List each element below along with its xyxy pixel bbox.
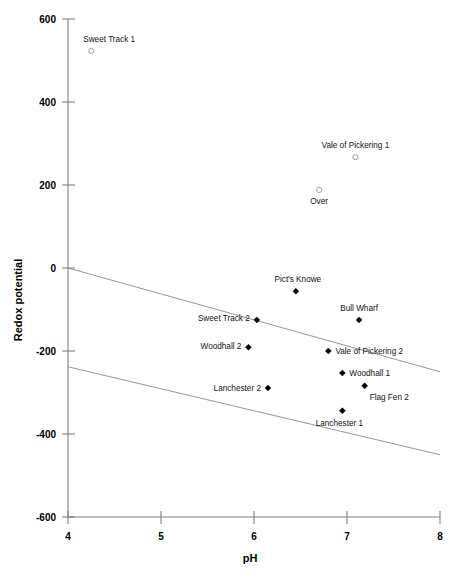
y-tick-label: 200	[39, 180, 56, 191]
x-axis-title: pH	[243, 552, 258, 564]
data-point-label: Pict's Knowe	[275, 275, 322, 284]
data-point-label: Flag Fen 2	[370, 393, 410, 402]
data-point-label: Woodhall 1	[349, 369, 390, 378]
x-tick-label: 4	[65, 531, 71, 542]
data-point-label: Over	[310, 197, 328, 206]
data-point-marker[interactable]	[339, 370, 345, 376]
data-point-label: Lanchester 2	[214, 384, 262, 393]
x-tick-label: 8	[437, 531, 443, 542]
data-point-marker[interactable]	[362, 383, 368, 389]
y-tick-label: -200	[36, 346, 56, 357]
axes-group	[68, 19, 440, 517]
data-point-marker[interactable]	[325, 348, 331, 354]
lower-bound-line	[68, 367, 440, 455]
scatter-plot-figure: 6004002000-200-400-600 45678 Redox poten…	[0, 0, 461, 577]
data-point-label: Lanchester 1	[316, 419, 364, 428]
y-tick-label: 0	[50, 263, 56, 274]
data-point-marker[interactable]	[293, 288, 299, 294]
data-point-marker[interactable]	[245, 344, 251, 350]
y-tick-label: -600	[36, 512, 56, 523]
data-point-label: Bull Wharf	[340, 304, 378, 313]
data-points-group	[89, 48, 368, 413]
data-point-marker[interactable]	[356, 317, 362, 323]
data-point-marker[interactable]	[353, 155, 358, 160]
data-point-marker[interactable]	[339, 408, 345, 414]
data-point-label: Woodhall 2	[201, 342, 242, 351]
data-point-marker[interactable]	[254, 317, 260, 323]
plot-canvas: 6004002000-200-400-600 45678 Redox poten…	[0, 0, 461, 577]
data-point-marker[interactable]	[265, 385, 271, 391]
y-axis-title: Redox potential	[12, 259, 24, 342]
y-tick-label: -400	[36, 429, 56, 440]
data-point-label: Vale of Pickering 1	[322, 141, 390, 150]
data-point-labels-group: Sweet Track 1Vale of Pickering 1OverPict…	[83, 35, 409, 428]
x-tick-label: 5	[158, 531, 164, 542]
data-point-marker[interactable]	[89, 48, 94, 53]
data-point-label: Sweet Track 2	[198, 314, 250, 323]
x-axis-ticks: 45678	[65, 511, 443, 542]
x-tick-label: 6	[251, 531, 257, 542]
data-point-marker[interactable]	[317, 187, 322, 192]
data-point-label: Sweet Track 1	[83, 35, 135, 44]
y-tick-label: 400	[39, 97, 56, 108]
y-tick-label: 600	[39, 14, 56, 25]
x-tick-label: 7	[344, 531, 350, 542]
trend-lines-group	[68, 268, 440, 455]
data-point-label: Vale of Pickering 2	[335, 347, 403, 356]
